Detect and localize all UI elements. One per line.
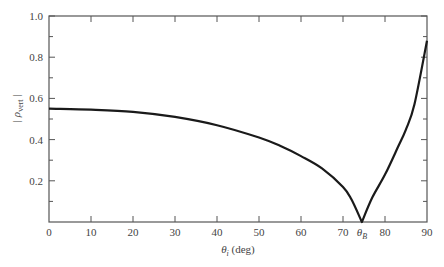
x-tick-label: 70 bbox=[338, 226, 350, 238]
x-tick-label: 40 bbox=[212, 226, 224, 238]
x-tick-label: 20 bbox=[128, 226, 140, 238]
y-tick-label: 0.4 bbox=[29, 134, 43, 146]
x-axis-label: θi (deg) bbox=[221, 243, 255, 258]
y-tick-label: 0.8 bbox=[29, 51, 43, 63]
x-tick-label: 10 bbox=[86, 226, 98, 238]
y-tick-label: 1.0 bbox=[29, 10, 43, 22]
x-tick-labels: 0102030405060708090 bbox=[46, 226, 433, 238]
y-tick-label: 0.6 bbox=[29, 92, 43, 104]
x-tick-label: 50 bbox=[254, 226, 266, 238]
x-tick-label: 0 bbox=[46, 226, 52, 238]
y-tick-labels: 0.20.40.60.81.0 bbox=[29, 10, 43, 187]
x-tick-label: 30 bbox=[170, 226, 182, 238]
y-axis-label: | ρvert | bbox=[10, 94, 25, 122]
x-tick-label: 60 bbox=[296, 226, 308, 238]
axis-ticks bbox=[49, 16, 427, 222]
data-series-line bbox=[49, 41, 427, 222]
reflection-coefficient-chart: 0102030405060708090 0.20.40.60.81.0 θB θ… bbox=[0, 0, 444, 267]
y-tick-label: 0.2 bbox=[29, 175, 43, 187]
plot-frame bbox=[49, 16, 427, 222]
brewster-angle-annotation: θB bbox=[357, 226, 367, 241]
x-tick-label: 80 bbox=[380, 226, 392, 238]
x-tick-label: 90 bbox=[422, 226, 434, 238]
